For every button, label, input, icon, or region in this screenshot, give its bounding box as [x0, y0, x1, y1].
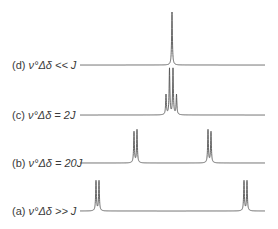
- spectrum-label-d: (d) ν°Δδ << J: [12, 59, 76, 71]
- label-condition: ν°Δδ = 20J: [29, 157, 83, 169]
- label-condition: ν°Δδ = 2J: [28, 109, 76, 121]
- label-prefix: (a): [12, 205, 25, 217]
- label-prefix: (c): [12, 109, 25, 121]
- spectrum-label-c: (c) ν°Δδ = 2J: [12, 109, 75, 121]
- label-condition: ν°Δδ >> J: [29, 205, 77, 217]
- spectrum-trace-a: [80, 180, 265, 211]
- label-condition: ν°Δδ << J: [29, 59, 77, 71]
- spectrum-trace-d: [80, 12, 265, 65]
- spectrum-label-b: (b) ν°Δδ = 20J: [12, 157, 82, 169]
- label-prefix: (b): [12, 157, 25, 169]
- nmr-spectra-figure: (d) ν°Δδ << J (c) ν°Δδ = 2J (b) ν°Δδ = 2…: [0, 0, 278, 229]
- label-prefix: (d): [12, 59, 25, 71]
- spectrum-label-a: (a) ν°Δδ >> J: [12, 205, 76, 217]
- spectrum-trace-c: [80, 68, 265, 115]
- spectrum-trace-b: [80, 129, 265, 163]
